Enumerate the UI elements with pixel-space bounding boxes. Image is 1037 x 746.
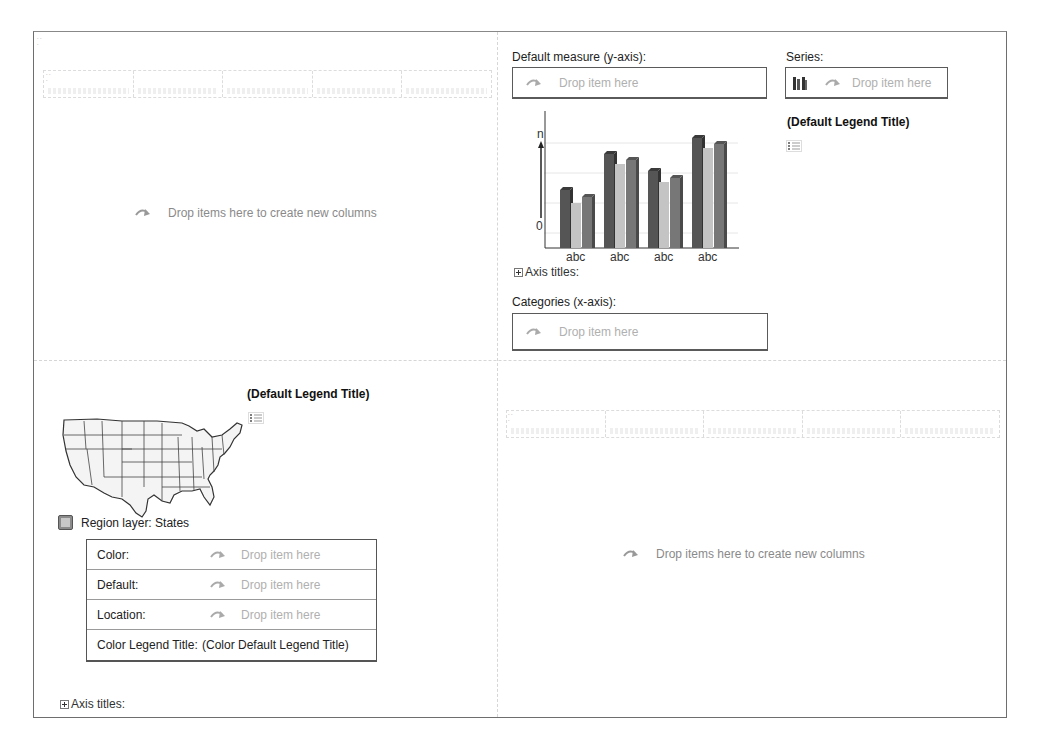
us-states-map[interactable] (62, 417, 247, 522)
curved-arrow-icon (824, 77, 844, 89)
series-bars-icon (792, 75, 808, 91)
property-row-location[interactable]: Location: Drop item here (87, 600, 376, 630)
region-layer-icon (58, 515, 73, 530)
quadrant-divider-horizontal (34, 360, 1006, 361)
property-row-default[interactable]: Default: Drop item here (87, 570, 376, 600)
drop-item-text: Drop item here (559, 325, 638, 339)
legend-list-icon (786, 140, 802, 152)
region-layer-label: Region layer: States (81, 516, 189, 530)
drop-item-text: Drop item here (241, 548, 320, 562)
property-row-color[interactable]: Color: Drop item here (87, 540, 376, 570)
legend-list-icon (248, 412, 264, 424)
series-label: Series: (786, 50, 823, 64)
crosstab-column-header[interactable] (43, 70, 492, 98)
map-legend-title[interactable]: (Default Legend Title) (247, 387, 369, 401)
column-cell[interactable] (313, 71, 403, 97)
svg-text:n: n (537, 127, 544, 141)
axis-titles-toggle[interactable]: Axis titles: (514, 265, 579, 279)
crosstab-column-header[interactable] (506, 410, 1000, 438)
y-axis-drop-zone[interactable]: Drop item here (512, 67, 767, 99)
region-properties-table: Color: Drop item here Default: Drop item… (86, 539, 377, 662)
curved-arrow-icon (209, 549, 229, 561)
column-cell[interactable] (507, 411, 606, 437)
plus-box-icon[interactable] (60, 700, 69, 709)
region-layer-header[interactable]: Region layer: States (58, 515, 189, 530)
column-cell[interactable] (134, 71, 224, 97)
column-cell[interactable] (44, 71, 134, 97)
curved-arrow-icon (209, 609, 229, 621)
plus-box-icon[interactable] (514, 268, 523, 277)
drag-handle[interactable]: ∙∙∙ (37, 35, 43, 47)
legend-title[interactable]: (Default Legend Title) (787, 115, 909, 129)
category-label: abc (698, 250, 717, 264)
drop-item-text: Drop item here (241, 578, 320, 592)
drag-handle[interactable]: ∙∙∙ (508, 411, 514, 423)
color-legend-title-value[interactable]: (Color Default Legend Title) (202, 638, 349, 652)
curved-arrow-icon (134, 207, 154, 219)
axis-titles-label: Axis titles: (71, 697, 125, 711)
column-cell[interactable] (223, 71, 313, 97)
column-cell[interactable] (606, 411, 705, 437)
drop-item-text: Drop item here (559, 76, 638, 90)
crosstab-drop-zone[interactable]: Drop items here to create new columns (134, 206, 377, 220)
x-axis-label: Categories (x-axis): (512, 295, 616, 309)
drop-item-text: Drop item here (241, 608, 320, 622)
x-axis-drop-zone[interactable]: Drop item here (512, 313, 768, 351)
svg-text:0: 0 (536, 219, 543, 233)
curved-arrow-icon (525, 77, 545, 89)
column-cell[interactable] (704, 411, 803, 437)
axis-titles-label: Axis titles: (525, 265, 579, 279)
y-axis-label: Default measure (y-axis): (512, 50, 646, 64)
drop-item-text: Drop item here (852, 76, 931, 90)
category-label: abc (610, 250, 629, 264)
column-cell[interactable] (901, 411, 999, 437)
series-drop-zone[interactable]: Drop item here (785, 67, 948, 99)
crosstab-drop-zone[interactable]: Drop items here to create new columns (622, 547, 865, 561)
category-label: abc (654, 250, 673, 264)
curved-arrow-icon (525, 326, 545, 338)
drop-columns-text: Drop items here to create new columns (168, 206, 377, 220)
drop-columns-text: Drop items here to create new columns (656, 547, 865, 561)
column-cell[interactable] (803, 411, 902, 437)
drag-handle[interactable]: ∙∙∙ (46, 71, 52, 83)
quadrant-divider-vertical (497, 32, 498, 717)
curved-arrow-icon (622, 548, 642, 560)
property-row-color-legend-title[interactable]: Color Legend Title: (Color Default Legen… (87, 630, 376, 660)
curved-arrow-icon (209, 579, 229, 591)
bar-chart-preview[interactable]: n 0 abc abc abc abc (504, 106, 774, 266)
column-cell[interactable] (402, 71, 491, 97)
map-axis-titles-toggle[interactable]: Axis titles: (60, 697, 125, 711)
report-canvas: ∙∙∙ ∙∙∙ Drop items here to create new co… (33, 31, 1007, 718)
category-label: abc (566, 250, 585, 264)
